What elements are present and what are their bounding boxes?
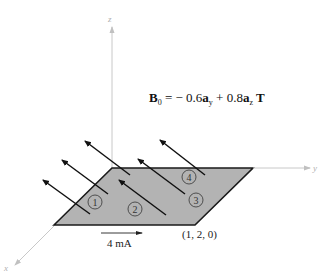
- corner-point-label: (1, 2, 0): [182, 228, 217, 240]
- x-axis-label: x: [3, 263, 8, 273]
- svg-text:1: 1: [93, 197, 98, 208]
- z-axis-label: z: [107, 14, 112, 24]
- field-arrow: [62, 160, 108, 194]
- diagram-canvas: z x y 1 2 3 4: [0, 0, 335, 275]
- svg-text:2: 2: [133, 204, 138, 215]
- current-label: 4 mA: [107, 237, 132, 249]
- field-equation: B0 = − 0.6ay + 0.8az T: [149, 90, 265, 107]
- svg-text:4: 4: [187, 172, 192, 183]
- svg-text:3: 3: [194, 195, 199, 206]
- y-axis-label: y: [312, 163, 317, 173]
- field-arrow: [85, 141, 130, 175]
